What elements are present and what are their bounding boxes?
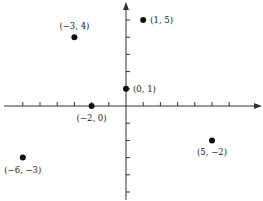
point-label: (−3, 4) <box>59 21 89 31</box>
data-point <box>140 17 146 23</box>
data-point <box>209 137 215 143</box>
point-label: (0, 1) <box>133 84 156 94</box>
point-label: (−2, 0) <box>77 113 107 123</box>
x-axis-arrow-icon <box>254 103 262 109</box>
data-point <box>89 103 95 109</box>
data-point <box>20 155 26 161</box>
point-label: (1, 5) <box>150 15 173 25</box>
axes <box>4 2 262 200</box>
data-point <box>123 86 129 92</box>
data-point <box>71 34 77 40</box>
data-points: (1, 5)(−3, 4)(0, 1)(−2, 0)(5, −2)(−6, −3… <box>4 15 227 175</box>
y-axis-arrow-icon <box>123 2 129 10</box>
point-label: (5, −2) <box>197 147 227 157</box>
coordinate-plane: (1, 5)(−3, 4)(0, 1)(−2, 0)(5, −2)(−6, −3… <box>0 0 263 201</box>
point-label: (−6, −3) <box>4 165 41 175</box>
